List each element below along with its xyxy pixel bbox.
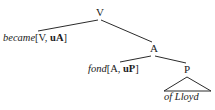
leaf-fond-word: fond <box>88 63 107 74</box>
syntax-tree-figure: V A P became[V, uA] fond[A, uP] of Lloyd <box>0 0 215 110</box>
branch-v-to-became <box>38 20 98 31</box>
leaf-of-lloyd: of Lloyd <box>164 92 199 103</box>
leaf-became-word: became <box>3 32 35 43</box>
leaf-became: became[V, uA] <box>3 33 67 44</box>
leaf-fond-category: A <box>110 63 118 74</box>
branch-a-to-fond <box>120 56 151 62</box>
branch-v-to-a <box>101 20 152 42</box>
branch-a-to-p <box>155 56 186 63</box>
node-label-a: A <box>143 43 165 54</box>
leaf-became-selected-category: A <box>56 32 64 43</box>
leaf-fond-bracket-close: ] <box>135 63 139 74</box>
leaf-became-bracket-close: ] <box>64 32 68 43</box>
node-label-p: P <box>177 64 197 75</box>
triangle-p-to-of-lloyd <box>164 77 211 91</box>
node-label-v: V <box>89 7 111 18</box>
leaf-fond: fond[A, uP] <box>88 64 139 75</box>
